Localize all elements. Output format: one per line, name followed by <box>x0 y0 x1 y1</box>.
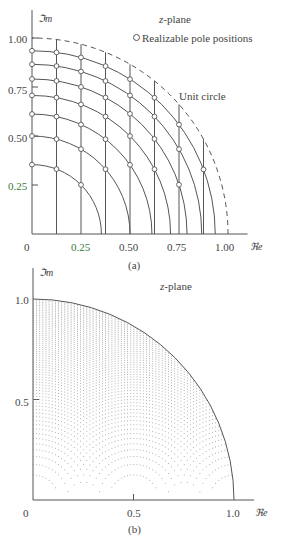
x-tick-a-0: 0 <box>24 242 30 253</box>
y-tick-a-2: 0.75 <box>8 85 27 96</box>
x-axis-label-b: ℜe <box>255 508 267 518</box>
plane-label-a: z-plane <box>159 14 191 25</box>
x-axis-label-a: ℜe <box>250 242 262 252</box>
y-tick-b-1: 1.0 <box>15 295 29 306</box>
legend-a: Realizable pole positions <box>133 33 253 44</box>
x-tick-a-1: 0.25 <box>71 242 90 253</box>
y-tick-a-3: 0.50 <box>8 133 27 144</box>
x-tick-a-3: 0.75 <box>167 242 186 253</box>
legend-text: Realizable pole positions <box>142 32 253 44</box>
pole-dot-grid <box>33 301 232 492</box>
unit-circle-label: Unit circle <box>179 91 226 102</box>
x-tick-a-2: 0.50 <box>119 242 138 253</box>
pole-marker-icon <box>133 34 140 41</box>
y-axis-label-a: ℑm <box>38 14 52 24</box>
y-tick-a-4: 0.25 <box>8 181 27 192</box>
y-tick-a-1: 1.00 <box>8 34 27 45</box>
y-tick-b-2: 0.5 <box>15 397 29 408</box>
caption-a: (a) <box>128 260 140 271</box>
plane-label-b-rest: -plane <box>164 280 191 292</box>
x-tick-a-4: 1.00 <box>215 242 234 253</box>
y-axis-label-b: ℑm <box>39 268 53 278</box>
plane-label-a-rest: -plane <box>163 13 190 25</box>
x-tick-b-1: 0.5 <box>127 508 141 519</box>
caption-b: (b) <box>128 524 141 535</box>
x-tick-b-0: 0 <box>23 508 29 519</box>
plane-label-b: z-plane <box>160 281 192 292</box>
x-tick-b-2: 1.0 <box>226 508 240 519</box>
